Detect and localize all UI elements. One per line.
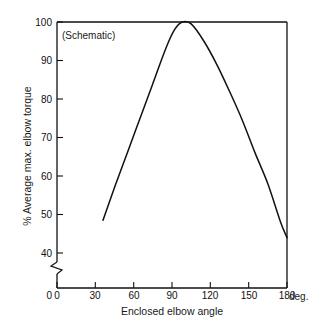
plot-frame (57, 22, 287, 288)
x-axis-title: Enclosed elbow angle (57, 305, 287, 317)
y-axis-ticks (57, 22, 63, 253)
torque-curve-line (103, 21, 287, 237)
y-axis-title: % Average max. elbow torque (21, 61, 33, 251)
y-tick-label-100: 100 (26, 17, 52, 28)
x-tick-label-0: 0 (42, 290, 72, 301)
schematic-annotation: (Schematic) (62, 30, 115, 41)
x-axis-ticks (57, 282, 287, 288)
y-axis-break-icon (51, 262, 62, 274)
x-axis-unit-label: deg. (289, 291, 308, 302)
x-tick-label-90: 90 (157, 290, 187, 301)
x-tick-label-60: 60 (119, 290, 149, 301)
x-tick-label-150: 150 (234, 290, 264, 301)
x-tick-label-120: 120 (195, 290, 225, 301)
x-tick-label-30: 30 (80, 290, 110, 301)
torque-angle-chart: 100 90 80 70 60 50 40 0 0 30 60 90 120 1… (0, 0, 313, 328)
chart-canvas (0, 0, 313, 328)
